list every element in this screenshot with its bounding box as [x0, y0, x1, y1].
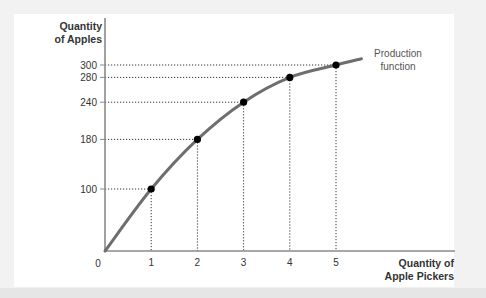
data-point-5: [332, 61, 339, 68]
origin-label: 0: [95, 258, 101, 269]
annotation-line: Production: [374, 48, 422, 59]
y-axis-label-line: of Apples: [55, 33, 103, 45]
data-point-3: [240, 99, 247, 106]
y-tick-label-240: 240: [80, 97, 97, 108]
x-tick-label-5: 5: [333, 257, 339, 268]
x-tick-label-2: 2: [195, 257, 201, 268]
chart-svg: 100180240280300123450 Quantityof ApplesQ…: [0, 0, 486, 298]
production-function-annotation: Productionfunction: [374, 48, 422, 72]
x-axis-label-line: Quantity of: [399, 257, 455, 269]
data-point-2: [194, 136, 201, 143]
x-tick-label-3: 3: [241, 257, 247, 268]
y-axis-label: Quantityof Apples: [55, 20, 103, 45]
chart-figure: 100180240280300123450 Quantityof ApplesQ…: [0, 0, 486, 298]
y-axis-label-line: Quantity: [59, 20, 102, 32]
y-tick-label-300: 300: [80, 60, 97, 71]
y-tick-label-100: 100: [80, 184, 97, 195]
data-point-4: [286, 74, 293, 81]
y-tick-label-180: 180: [80, 134, 97, 145]
annotation-line: function: [380, 61, 415, 72]
x-tick-label-1: 1: [148, 257, 154, 268]
x-tick-label-4: 4: [287, 257, 293, 268]
data-point-1: [148, 185, 155, 192]
bottom-band: [0, 288, 486, 298]
y-tick-label-280: 280: [80, 72, 97, 83]
x-axis-label-line: Apple Pickers: [385, 270, 455, 282]
